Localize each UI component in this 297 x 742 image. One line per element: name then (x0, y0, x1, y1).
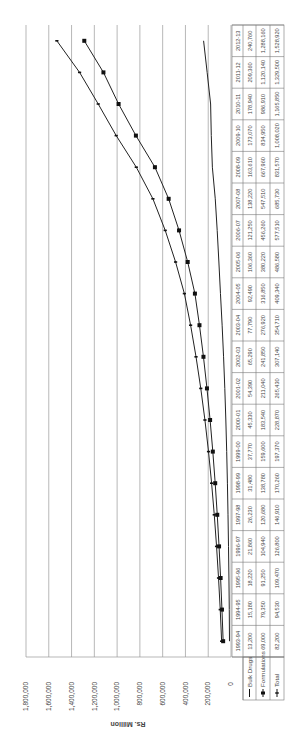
y-tick-label: 400,000 (182, 682, 189, 706)
legend-label: Total (273, 674, 280, 687)
square-marker (167, 197, 171, 201)
table-cell: 178,940 (247, 94, 253, 114)
y-tick-label: 0 (227, 682, 234, 686)
table-cell: 409,340 (274, 283, 280, 303)
table-cell: 209,360 (247, 62, 253, 82)
table-cell: 91,250 (260, 569, 266, 586)
x-category-label: 2012-13 (235, 31, 241, 52)
table-cell: 82,200 (274, 633, 280, 650)
y-tick-label: 1,400,000 (68, 682, 75, 711)
table-cell: 159,600 (260, 441, 266, 461)
tick-marker (78, 72, 81, 74)
x-category-label: 2007-08 (235, 189, 241, 210)
x-category-label: 1996-97 (235, 536, 241, 557)
table-cell: 106,360 (247, 252, 253, 272)
x-category-label: 2004-05 (235, 283, 241, 304)
x-category-label: 1998-99 (235, 473, 241, 494)
table-cell: 547,510 (260, 189, 266, 209)
table-cell: 307,140 (274, 347, 280, 367)
table-cell: 228,870 (274, 410, 280, 430)
y-tick-label: 600,000 (159, 682, 166, 706)
tick-marker (199, 388, 202, 390)
square-marker (177, 228, 181, 232)
x-category-label: 2011-12 (235, 62, 241, 82)
x-category-label: 2001-02 (235, 378, 241, 399)
table-cell: 146,910 (274, 505, 280, 525)
tick-marker (135, 166, 138, 168)
tick-marker (174, 261, 177, 263)
y-tick-label: 800,000 (136, 682, 143, 706)
x-category-label: 2000-01 (235, 410, 241, 431)
table-cell: 37,770 (247, 443, 253, 460)
table-cell: 31,480 (247, 475, 253, 492)
y-axis-label: Rs. Million (111, 721, 146, 728)
tick-marker (189, 324, 192, 326)
square-marker (117, 102, 121, 106)
series-lines (55, 39, 229, 643)
legend-label: Bulk Drugs (246, 657, 253, 687)
tick-marker (215, 546, 218, 548)
table-cell: 109,470 (274, 568, 280, 588)
table-cell: 138,780 (260, 473, 266, 493)
square-marker (213, 481, 217, 485)
table-cell: 54,390 (247, 380, 253, 397)
table-cell: 15,180 (247, 601, 253, 618)
tick-marker (213, 514, 216, 516)
data-table: 1993-941994-951995-961996-971997-981998-… (232, 25, 284, 700)
square-marker (205, 386, 209, 390)
x-category-label: 1993-94 (235, 631, 241, 652)
table-cell: 26,230 (247, 506, 253, 523)
legend-tick-icon (275, 692, 279, 693)
table-cell: 77,790 (247, 317, 253, 334)
table-cell: 13,200 (247, 633, 253, 650)
x-category-label: 2002-03 (235, 347, 241, 368)
table-cell: 211,040 (260, 378, 266, 398)
series-line-formulations (84, 41, 223, 641)
table-cell: 1,008,020 (274, 123, 280, 148)
table-cell: 486,580 (274, 252, 280, 272)
tick-marker (183, 293, 186, 295)
x-category-label: 2006-07 (235, 220, 241, 241)
table-cell: 577,510 (274, 220, 280, 240)
rotated-chart: 0200,000400,000600,000800,0001,000,0001,… (0, 0, 297, 742)
table-cell: 1,528,920 (274, 28, 280, 53)
legend-label: Formulations (259, 651, 266, 687)
table-cell: 1,165,850 (274, 92, 280, 117)
table-cell: 241,850 (260, 347, 266, 367)
tick-marker (219, 609, 222, 611)
legend-square-icon (261, 692, 265, 695)
square-marker (193, 292, 197, 296)
table-cell: 667,960 (260, 157, 266, 177)
table-cell: 276,920 (260, 315, 266, 335)
table-cell: 138,220 (247, 189, 253, 209)
series-line-total (57, 41, 222, 641)
table-cell: 79,350 (260, 601, 266, 618)
table-cell: 831,570 (274, 157, 280, 177)
table-cell: 380,220 (260, 252, 266, 272)
table-cell: 197,370 (274, 441, 280, 461)
y-tick-label: 1,600,000 (45, 682, 52, 711)
x-category-label: 2009-10 (235, 125, 241, 146)
tick-marker (164, 230, 167, 232)
tick-marker (194, 356, 197, 358)
tick-marker (203, 419, 206, 421)
line-chart: 0200,000400,000600,000800,0001,000,0001,… (0, 0, 297, 742)
table-cell: 69,000 (260, 633, 266, 650)
table-cell: 1,329,500 (274, 60, 280, 85)
gridlines (26, 25, 231, 657)
square-marker (201, 355, 205, 359)
y-tick-label: 1,000,000 (113, 682, 120, 711)
table-cell: 834,950 (260, 125, 266, 145)
table-cell: 65,290 (247, 348, 253, 365)
table-cell: 265,430 (274, 378, 280, 398)
y-tick-label: 1,800,000 (22, 682, 29, 711)
tick-marker (210, 482, 213, 484)
square-marker (153, 165, 157, 169)
x-category-label: 2010-11 (235, 94, 241, 114)
y-tick-label: 1,200,000 (91, 682, 98, 711)
square-marker (101, 70, 105, 74)
tick-marker (217, 577, 220, 579)
tick-marker (220, 640, 223, 642)
x-category-label: 1995-96 (235, 568, 241, 589)
tick-marker (207, 451, 210, 453)
